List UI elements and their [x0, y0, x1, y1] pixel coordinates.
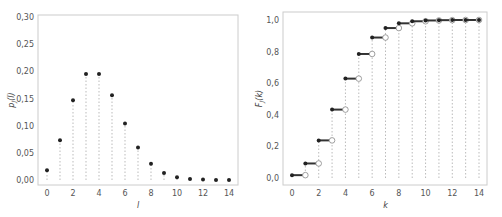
- y-tick-label: 0,30: [16, 13, 34, 22]
- y-tick-label: 0,15: [16, 95, 34, 104]
- data-point: [397, 21, 401, 25]
- x-tick-label: 2: [316, 189, 321, 198]
- open-endpoint: [316, 161, 322, 167]
- data-point: [149, 162, 153, 166]
- y-tick-label: 1,0: [266, 16, 279, 25]
- open-endpoint: [329, 138, 335, 144]
- data-point: [303, 161, 307, 165]
- data-point: [45, 168, 49, 172]
- data-point: [357, 52, 361, 56]
- data-point: [175, 175, 179, 179]
- x-tick-label: 10: [420, 189, 430, 198]
- y-tick-label: 0,2: [266, 142, 279, 151]
- open-endpoint: [383, 35, 389, 41]
- data-point: [450, 18, 454, 22]
- chart-canvas: 024681012140,000,050,100,150,200,250,30l…: [0, 0, 502, 217]
- open-endpoint: [303, 172, 309, 178]
- x-tick-label: 0: [289, 189, 294, 198]
- open-endpoint: [356, 76, 362, 82]
- data-point: [464, 18, 468, 22]
- x-tick-label: 10: [172, 189, 182, 198]
- x-tick-label: 6: [370, 189, 375, 198]
- data-point: [317, 138, 321, 142]
- data-point: [84, 72, 88, 76]
- x-tick-label: 2: [70, 189, 75, 198]
- data-point: [136, 145, 140, 149]
- x-tick-label: 12: [447, 189, 457, 198]
- data-point: [384, 26, 388, 30]
- y-tick-label: 0,20: [16, 67, 34, 76]
- data-point: [58, 138, 62, 142]
- x-tick-label: 8: [148, 189, 153, 198]
- x-tick-label: 4: [96, 189, 101, 198]
- data-point: [370, 36, 374, 40]
- data-point: [330, 108, 334, 112]
- data-point: [71, 98, 75, 102]
- cdf-chart: 024681012140,00,20,40,60,81,0kFJ(k): [255, 12, 487, 210]
- y-tick-label: 0,4: [266, 111, 279, 120]
- x-axis-label: k: [383, 201, 388, 210]
- data-point: [424, 18, 428, 22]
- x-tick-label: 4: [343, 189, 348, 198]
- x-tick-label: 12: [198, 189, 208, 198]
- data-point: [227, 178, 231, 182]
- y-tick-label: 0,8: [266, 48, 279, 57]
- open-endpoint: [343, 107, 349, 113]
- data-point: [290, 173, 294, 177]
- open-endpoint: [396, 25, 402, 31]
- data-point: [214, 178, 218, 182]
- y-axis-label: FJ(k): [255, 90, 266, 107]
- data-point: [123, 121, 127, 125]
- data-point: [201, 177, 205, 181]
- x-tick-label: 8: [396, 189, 401, 198]
- y-tick-label: 0,0: [266, 174, 279, 183]
- open-endpoint: [369, 51, 375, 57]
- y-tick-label: 0,00: [16, 176, 34, 185]
- data-point: [410, 19, 414, 23]
- x-tick-label: 6: [122, 189, 127, 198]
- data-point: [477, 18, 481, 22]
- x-tick-label: 14: [474, 189, 484, 198]
- data-point: [437, 18, 441, 22]
- data-point: [188, 177, 192, 181]
- data-point: [110, 93, 114, 97]
- data-point: [343, 77, 347, 81]
- x-tick-label: 14: [224, 189, 234, 198]
- y-tick-label: 0,25: [16, 40, 34, 49]
- pmf-chart: 024681012140,000,050,100,150,200,250,30l…: [7, 13, 238, 210]
- data-point: [97, 72, 101, 76]
- x-axis-label: l: [137, 201, 140, 210]
- y-tick-label: 0,10: [16, 122, 34, 131]
- data-point: [162, 171, 166, 175]
- y-tick-label: 0,6: [266, 79, 279, 88]
- x-tick-label: 0: [44, 189, 49, 198]
- y-tick-label: 0,05: [16, 149, 34, 158]
- plot-frame: [38, 15, 238, 185]
